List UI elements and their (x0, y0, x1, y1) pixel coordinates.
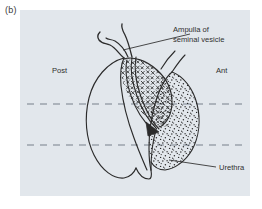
label-urethra: Urethra (219, 163, 245, 172)
anatomy-diagram-svg: Post Ant Ampulla of seminal vesicle Uret… (20, 10, 250, 196)
label-ampulla-line1: Ampulla of (173, 25, 210, 34)
diagram-panel: Post Ant Ampulla of seminal vesicle Uret… (20, 10, 250, 196)
label-anterior: Ant (216, 66, 228, 75)
label-posterior: Post (52, 66, 68, 75)
figure-root: (b) (0, 0, 262, 209)
label-ampulla-line2: seminal vesicle (173, 35, 225, 44)
panel-label: (b) (5, 5, 17, 16)
